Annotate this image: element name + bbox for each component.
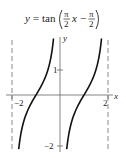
y-tick-label-neg2: −2 [44,141,54,151]
curve-branch-right [67,39,102,150]
y-tick-label-1: 1 [53,65,58,75]
x-tick-label-2: 2 [103,98,108,108]
x-tick-label-neg2: −2 [14,98,24,108]
y-axis-label: y [62,33,67,43]
curve-branch-left [19,39,54,150]
x-axis-label: x [113,91,118,101]
graph: y x −2 2 1 −2 [0,0,126,158]
